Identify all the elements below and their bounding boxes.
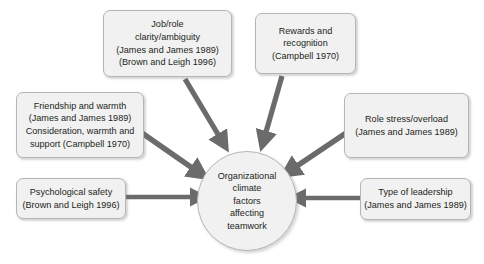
node-rewards-line-2: recognition [283,37,328,50]
center-line-1: Organizational [218,170,277,182]
arrow-role-stress-to-center [291,131,349,170]
node-job-role-line-2: clarity/ambiguity [135,31,200,44]
arrow-friendship-to-center [142,133,198,172]
node-job-role-line-1: Job/role [151,18,183,31]
arrow-rewards-to-center [264,76,282,139]
node-leadership-line-2: (James and James 1989) [364,199,467,212]
center-line-2: climate [233,182,262,194]
center-line-4: affecting [230,207,264,219]
arrow-job-role-to-center [185,79,222,141]
node-type-of-leadership[interactable]: Type of leadership (James and James 1989… [360,178,471,220]
node-job-role-line-4: (Brown and Leigh 1996) [119,56,216,69]
node-psych-safety-line-1: Psychological safety [30,186,112,199]
node-rewards-line-1: Rewards and [279,25,333,38]
organizational-climate-diagram: Job/role clarity/ambiguity (James and Ja… [0,0,484,264]
node-rewards-line-3: (Campbell 1970) [272,50,339,63]
node-friendship-line-4: support (Campbell 1970) [30,138,130,151]
node-friendship-line-3: Consideration, warmth and [26,125,135,138]
center-line-5: teamwork [227,220,266,232]
node-friendship-line-2: (James and James 1989) [29,112,132,125]
node-leadership-line-1: Type of leadership [378,186,452,199]
node-role-stress-overload[interactable]: Role stress/overload (James and James 19… [344,93,469,158]
node-role-stress-line-2: (James and James 1989) [355,126,458,139]
node-rewards-and-recognition[interactable]: Rewards and recognition (Campbell 1970) [255,13,356,74]
node-job-role-line-3: (James and James 1989) [116,44,219,57]
node-job-role[interactable]: Job/role clarity/ambiguity (James and Ja… [103,10,232,77]
center-line-3: factors [233,195,260,207]
node-friendship-and-warmth[interactable]: Friendship and warmth (James and James 1… [16,92,144,158]
center-node-organizational-climate[interactable]: Organizational climate factors affecting… [197,151,297,251]
node-friendship-line-1: Friendship and warmth [34,100,127,113]
node-role-stress-line-1: Role stress/overload [365,113,448,126]
node-psychological-safety[interactable]: Psychological safety (Brown and Leigh 19… [16,178,126,219]
node-psych-safety-line-2: (Brown and Leigh 1996) [22,199,119,212]
